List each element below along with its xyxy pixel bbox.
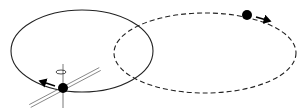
orbits	[11, 10, 296, 93]
body-dot	[58, 83, 68, 93]
spinning-body	[29, 64, 100, 108]
body-dot	[242, 10, 252, 20]
direction-arrow-icon	[256, 17, 270, 21]
solid-orbit	[11, 10, 153, 92]
bodies	[29, 10, 270, 108]
orbit-diagram	[0, 0, 306, 112]
spin-rotation-icon	[56, 70, 66, 74]
dashed-orbit	[114, 13, 296, 93]
